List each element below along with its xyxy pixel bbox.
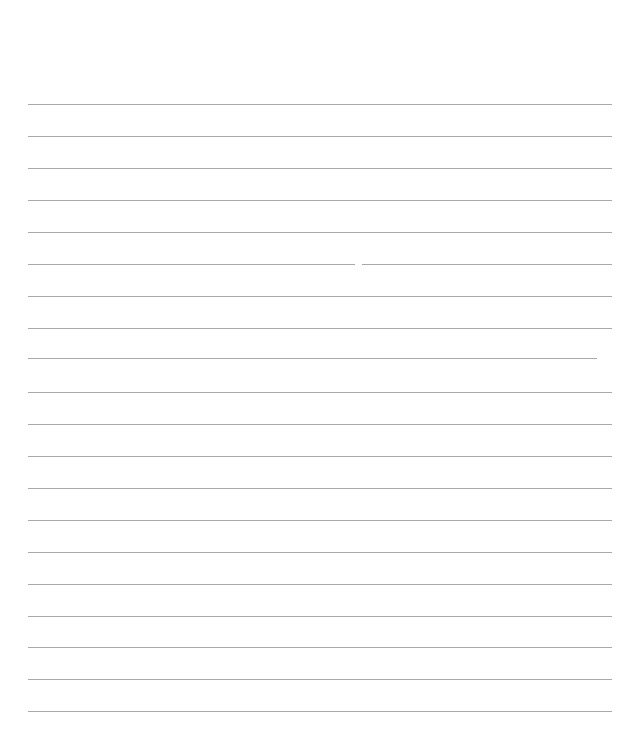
ruled-line xyxy=(28,552,612,553)
ruled-line-gap xyxy=(355,264,362,265)
ruled-line xyxy=(28,264,612,265)
ruled-line xyxy=(28,616,612,617)
ruled-line xyxy=(28,456,612,457)
ruled-line xyxy=(28,328,612,329)
ruled-line xyxy=(28,711,612,712)
ruled-line xyxy=(28,488,612,489)
lined-paper-sheet xyxy=(0,0,639,756)
ruled-line xyxy=(28,200,612,201)
ruled-line xyxy=(28,520,612,521)
ruled-line xyxy=(28,358,597,359)
ruled-line xyxy=(28,584,612,585)
ruled-line xyxy=(28,679,612,680)
ruled-line xyxy=(28,647,612,648)
ruled-line xyxy=(28,104,612,105)
ruled-line xyxy=(28,296,612,297)
ruled-line xyxy=(28,424,612,425)
ruled-line xyxy=(28,392,612,393)
ruled-line xyxy=(28,232,612,233)
ruled-line xyxy=(28,136,612,137)
ruled-line xyxy=(28,168,612,169)
